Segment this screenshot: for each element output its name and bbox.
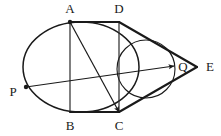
shapes-layer [23, 22, 175, 112]
vertex-label-c: C [115, 118, 124, 133]
vertex-dot-p [24, 85, 28, 89]
geometry-canvas: A B C D E P Q [0, 0, 221, 136]
vertex-dot-a [68, 20, 72, 24]
vertex-label-e: E [206, 59, 214, 74]
vertex-label-b: B [66, 118, 75, 133]
geometry-figure: A B C D E P Q [0, 0, 221, 136]
arrows-layer [26, 22, 174, 112]
large-circle [23, 22, 139, 112]
vertex-label-p: P [9, 84, 16, 99]
vertex-label-q: Q [178, 59, 188, 74]
vertex-label-d: D [114, 1, 123, 16]
arrow-p-to-q [26, 66, 174, 87]
vertex-label-a: A [65, 1, 75, 16]
arrow-a-to-c [70, 22, 119, 112]
labels-layer: A B C D E P Q [9, 1, 214, 133]
